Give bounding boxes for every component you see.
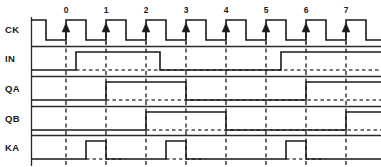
clock-number-1: 1 (104, 5, 109, 15)
up-arrow-icon-7 (342, 23, 350, 44)
signal-label-ka: KA (5, 142, 20, 153)
up-arrow-icon-6 (302, 23, 310, 44)
signal-label-qa: QA (5, 83, 20, 94)
clock-number-5: 5 (264, 5, 269, 15)
signal-label-qb: QB (5, 113, 20, 124)
clock-number-6: 6 (304, 5, 309, 15)
timing-diagram: CK IN QA QB KA 0 1 2 3 4 5 6 7 (0, 0, 381, 167)
signal-label-column: CK IN QA QB KA (5, 24, 20, 153)
waveform-qa (31, 82, 381, 100)
signal-label-ck: CK (5, 24, 20, 35)
up-arrow-icon-1 (102, 23, 110, 44)
waveform-ka (31, 141, 381, 159)
up-arrow-icon-3 (182, 23, 190, 44)
clock-number-2: 2 (144, 5, 149, 15)
waveform-ck (31, 20, 381, 40)
up-arrow-icon-5 (262, 23, 270, 44)
clock-number-4: 4 (224, 5, 229, 15)
clock-number-7: 7 (344, 5, 349, 15)
row-separators (31, 47, 381, 136)
waveform-qb (31, 112, 381, 130)
timing-waveform-canvas: CK IN QA QB KA 0 1 2 3 4 5 6 7 (0, 0, 381, 167)
up-arrow-icon-4 (222, 23, 230, 44)
up-arrow-icon-2 (142, 23, 150, 44)
clock-number-0: 0 (64, 5, 69, 15)
clock-marker-numbers: 0 1 2 3 4 5 6 7 (64, 5, 349, 15)
signal-label-in: IN (5, 53, 15, 64)
clock-number-3: 3 (184, 5, 189, 15)
up-arrow-icon-0 (62, 23, 70, 44)
waveform-in (31, 52, 381, 70)
